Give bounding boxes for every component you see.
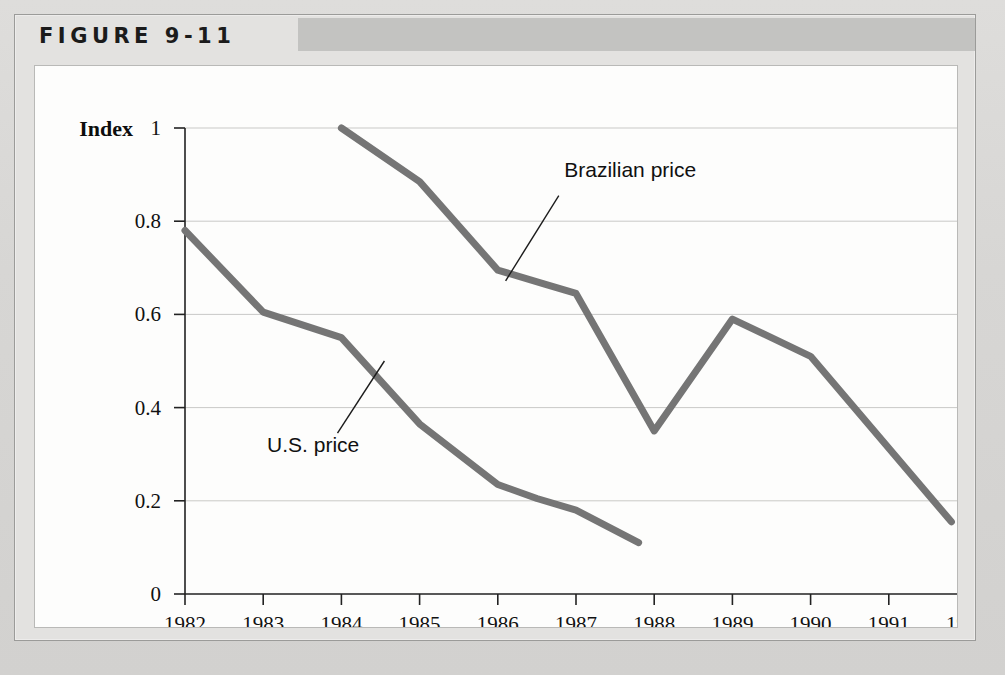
x-tick-label: 1992 xyxy=(946,612,957,627)
annotation-leader-line xyxy=(506,196,559,281)
y-axis-ticks xyxy=(174,128,185,594)
x-tick-label: 1991 xyxy=(868,612,910,627)
y-tick-label: 0 xyxy=(151,582,162,606)
annotation-leader-line xyxy=(337,361,384,433)
y-tick-label: 0.2 xyxy=(135,489,161,513)
y-tick-label: 0.6 xyxy=(135,302,161,326)
chart-svg: 10.80.60.40.20 1982198319841985198619871… xyxy=(35,66,957,627)
figure-label: FIGURE 9-11 xyxy=(39,24,235,48)
header-accent-bar xyxy=(298,18,975,51)
line-chart: 10.80.60.40.20 1982198319841985198619871… xyxy=(35,66,957,627)
x-axis-ticks xyxy=(185,594,957,605)
x-tick-label: 1983 xyxy=(242,612,284,627)
y-axis-tick-labels: 10.80.60.40.20 xyxy=(135,116,162,606)
x-tick-label: 1990 xyxy=(790,612,832,627)
chart-panel: 10.80.60.40.20 1982198319841985198619871… xyxy=(34,65,958,628)
y-axis-title: Index xyxy=(79,116,133,141)
axis-lines xyxy=(185,128,957,594)
figure-container: FIGURE 9-11 10.80.60.40.20 1982198319841… xyxy=(14,14,976,641)
x-tick-label: 1986 xyxy=(477,612,519,627)
x-tick-label: 1988 xyxy=(633,612,675,627)
series-line-u-s-price xyxy=(185,231,639,543)
x-tick-label: 1989 xyxy=(711,612,753,627)
x-tick-label: 1982 xyxy=(164,612,206,627)
y-tick-label: 0.8 xyxy=(135,209,161,233)
data-series xyxy=(185,128,951,543)
y-tick-label: 1 xyxy=(151,116,162,140)
figure-header: FIGURE 9-11 xyxy=(15,15,975,57)
x-tick-label: 1985 xyxy=(399,612,441,627)
x-axis-tick-labels: 1982198319841985198619871988198919901991… xyxy=(164,612,957,627)
x-tick-label: 1987 xyxy=(555,612,597,627)
y-tick-label: 0.4 xyxy=(135,396,162,420)
source-note-partial xyxy=(24,660,981,674)
annotation-label-brazilian-price: Brazilian price xyxy=(564,158,696,181)
series-annotations: Brazilian priceU.S. price xyxy=(267,158,696,456)
x-tick-label: 1984 xyxy=(320,612,363,627)
series-line-brazilian-price xyxy=(341,128,951,522)
annotation-label-u-s-price: U.S. price xyxy=(267,433,359,456)
